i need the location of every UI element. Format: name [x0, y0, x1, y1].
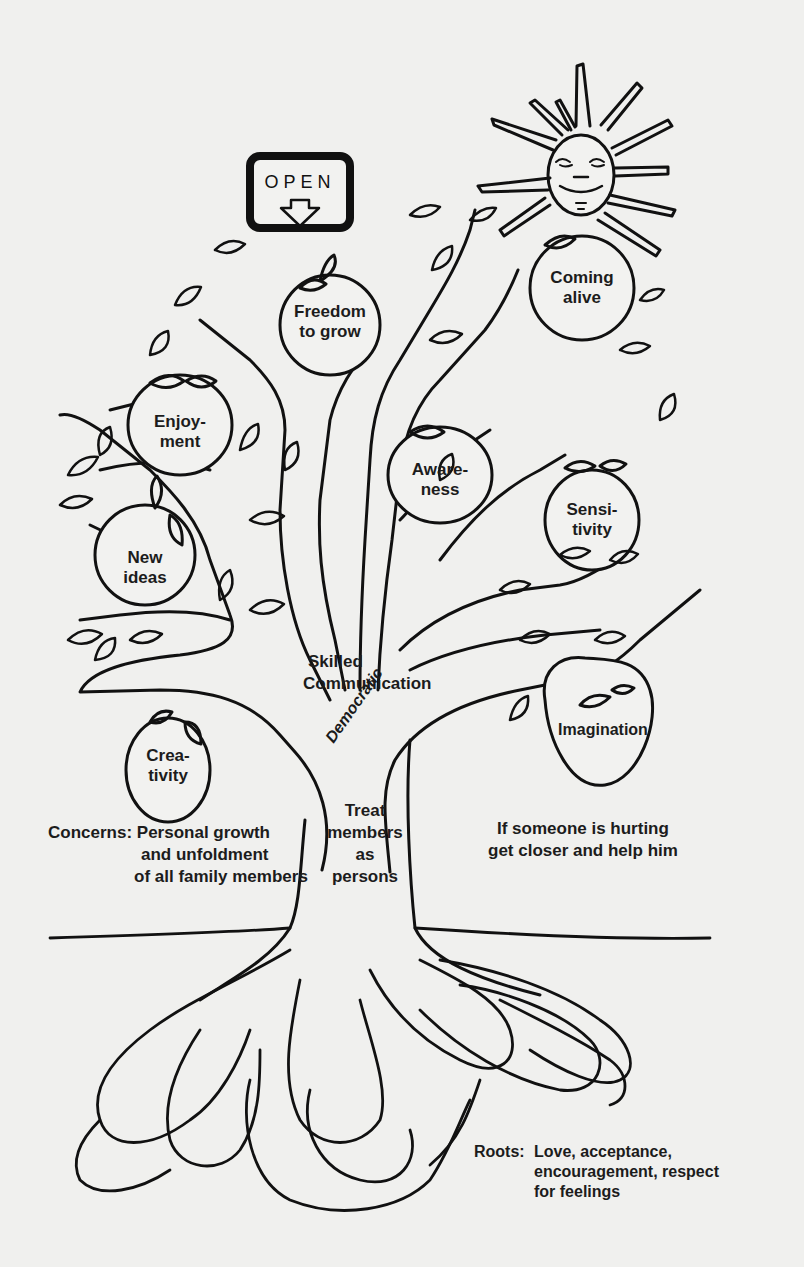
note-line: and unfoldment: [48, 844, 308, 866]
arrow-down-icon: [277, 198, 323, 228]
fruit-label-freedom: Freedom to grow: [290, 302, 370, 342]
fruit-label-line: tivity: [552, 520, 632, 540]
fruit-label-line: Aware-: [400, 460, 480, 480]
smiling-sun-icon: [478, 64, 675, 256]
fruit-label-line: Enjoy-: [140, 412, 220, 432]
fruit-label-creativity: Crea- tivity: [128, 746, 208, 786]
hurting-note: If someone is hurting get closer and hel…: [488, 818, 678, 862]
label-skilled: Skilled: [308, 652, 363, 672]
ground-line: [50, 928, 710, 938]
fruit-label-line: to grow: [290, 322, 370, 342]
label-line: persons: [320, 866, 410, 888]
fruit-label-coming-alive: Coming alive: [542, 268, 622, 308]
note-line: for feelings: [474, 1182, 719, 1202]
note-line: Love, acceptance,: [534, 1142, 672, 1162]
fruit-label-line: Sensi-: [552, 500, 632, 520]
open-sign: OPEN: [246, 152, 354, 232]
roots-prefix: Roots:: [474, 1142, 534, 1162]
label-treat-members: Treat members as persons: [320, 800, 410, 888]
fruit-label-imagination: Imagination: [548, 720, 658, 740]
note-line: If someone is hurting: [488, 818, 678, 840]
open-sign-label: OPEN: [254, 172, 346, 193]
fruit-label-line: New: [105, 548, 185, 568]
fruit-label-line: ideas: [105, 568, 185, 588]
roots-note: Roots: Love, acceptance, encouragement, …: [474, 1142, 719, 1202]
note-line: of all family members: [48, 866, 308, 888]
fruit-label-line: ment: [140, 432, 220, 452]
fruit-label-sensitivity: Sensi- tivity: [552, 500, 632, 540]
fruit-label-enjoyment: Enjoy- ment: [140, 412, 220, 452]
label-line: members: [320, 822, 410, 844]
fruit-label-line: Freedom: [290, 302, 370, 322]
fruit-label-line: Crea-: [128, 746, 208, 766]
label-line: as: [320, 844, 410, 866]
fruit-label-line: tivity: [128, 766, 208, 786]
fruit-label-line: Coming: [542, 268, 622, 288]
label-line: Treat: [320, 800, 410, 822]
tree-illustration: [0, 0, 804, 1267]
note-line: encouragement, respect: [474, 1162, 719, 1182]
note-line: Concerns: Personal growth: [48, 822, 308, 844]
fruit-label-line: ness: [400, 480, 480, 500]
fruit-label-line: Imagination: [548, 720, 658, 740]
fruit-label-awareness: Aware- ness: [400, 460, 480, 500]
concerns-note: Concerns: Personal growth and unfoldment…: [48, 822, 308, 888]
fruit-label-new-ideas: New ideas: [105, 548, 185, 588]
note-line: get closer and help him: [488, 840, 678, 862]
fruit-label-line: alive: [542, 288, 622, 308]
